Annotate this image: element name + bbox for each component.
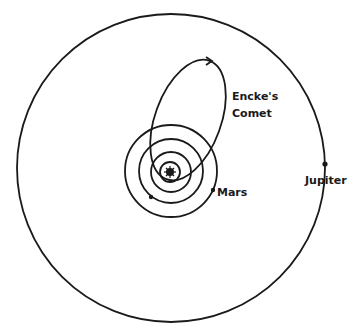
comet-label-line1: Encke's	[232, 90, 279, 103]
jupiter-orbit	[17, 14, 325, 322]
sun-icon	[164, 166, 176, 178]
earth-marker	[149, 195, 153, 199]
mars-marker	[211, 188, 215, 192]
jupiter-label: Jupiter	[304, 174, 347, 187]
jupiter-marker	[322, 161, 327, 166]
comet-label-line2: Comet	[232, 107, 272, 120]
mars-label: Mars	[217, 186, 248, 199]
orbit-diagram: Encke's Comet Mars Jupiter	[0, 0, 355, 335]
